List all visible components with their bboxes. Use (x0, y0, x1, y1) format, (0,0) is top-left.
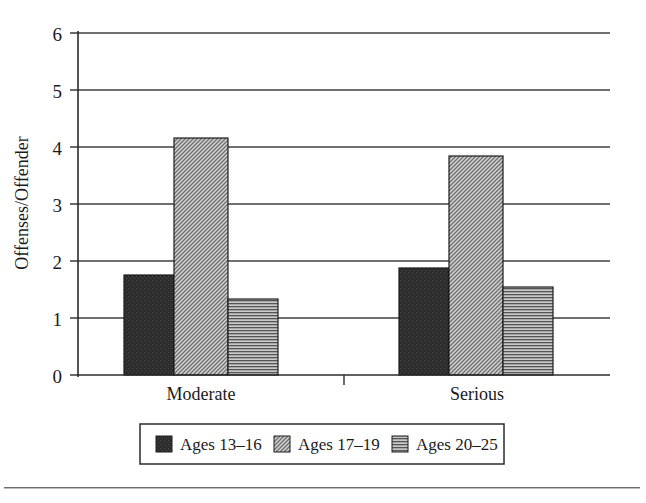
legend-label-ages-20-25: Ages 20–25 (416, 435, 498, 454)
y-tick-label-6: 6 (53, 24, 63, 45)
y-tick-label-5: 5 (53, 81, 63, 102)
y-tick-labels: 6 5 4 3 2 1 0 (53, 24, 63, 387)
bar-serious-ages-13-16 (399, 268, 449, 375)
legend-label-ages-13-16: Ages 13–16 (180, 435, 262, 454)
y-tick-label-2: 2 (53, 252, 63, 273)
bar-moderate-ages-20-25 (228, 299, 278, 375)
legend-label-ages-17-19: Ages 17–19 (298, 435, 380, 454)
page-separator-rule (4, 487, 640, 489)
bar-group-moderate (124, 138, 278, 375)
y-tick-marks (70, 33, 78, 375)
y-axis-title: Offenses/Offender (12, 136, 32, 269)
legend-swatch-ages-20-25 (392, 436, 408, 452)
bar-chart-figure: 6 5 4 3 2 1 0 Offenses/Offender Moderate… (0, 0, 646, 503)
y-tick-label-4: 4 (53, 138, 63, 159)
bar-serious-ages-17-19 (449, 156, 503, 375)
y-tick-label-1: 1 (53, 309, 63, 330)
bar-moderate-ages-17-19 (174, 138, 228, 375)
bar-moderate-ages-13-16 (124, 275, 174, 375)
legend-swatch-ages-17-19 (274, 436, 290, 452)
legend-swatch-ages-13-16 (156, 436, 172, 452)
bar-serious-ages-20-25 (503, 287, 553, 375)
chart-canvas: 6 5 4 3 2 1 0 Offenses/Offender Moderate… (0, 0, 646, 503)
y-tick-label-3: 3 (53, 195, 63, 216)
chart-legend: Ages 13–16 Ages 17–19 Ages 20–25 (140, 424, 504, 464)
x-category-label-serious: Serious (450, 384, 504, 404)
bar-group-serious (399, 156, 553, 375)
y-tick-label-0: 0 (53, 366, 63, 387)
x-category-label-moderate: Moderate (167, 384, 236, 404)
